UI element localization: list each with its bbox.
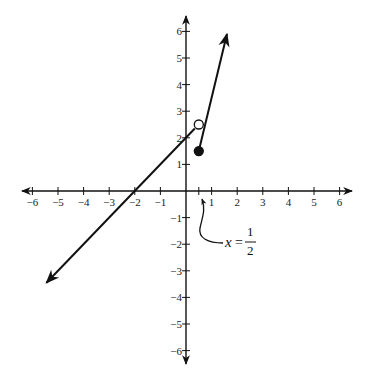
y-tick-label: −5 [170,318,182,330]
y-tick-label: −1 [170,212,182,224]
annotation-equals: = [235,235,243,250]
annotation-variable: x [224,234,232,250]
y-tick-label: 1 [177,158,183,170]
y-tick-label: 4 [177,79,183,91]
y-tick-label: 6 [177,25,183,37]
line-right-piece [199,34,227,151]
piecewise-graph: −6−5−4−3−2−1123456 −6−5−4−3−2−1123456 x … [0,0,371,377]
x-tick-label: −6 [27,196,39,208]
y-tick-label: −3 [170,265,182,277]
x-tick-label: 6 [337,196,343,208]
x-tick-label: 5 [311,196,317,208]
annotation-denominator: 2 [247,243,254,258]
x-tick-label: 3 [260,196,266,208]
y-tick-label: −6 [170,345,182,357]
x-axis-ticks: −6−5−4−3−2−1123456 [27,187,343,208]
y-tick-label: −4 [170,291,182,303]
x-tick-label: 4 [286,196,292,208]
x-tick-label: −5 [52,196,64,208]
closed-circle-point [194,147,203,156]
series-lines [46,34,226,283]
y-tick-label: −2 [170,238,182,250]
x-tick-label: −3 [103,196,115,208]
x-tick-label: 2 [234,196,240,208]
annotation-numerator: 1 [247,224,254,239]
x-tick-label: −2 [129,196,141,208]
y-tick-label: 3 [177,105,183,117]
x-tick-label: −4 [78,196,90,208]
x-tick-label: −1 [155,196,167,208]
x-tick-label: 1 [209,196,215,208]
y-tick-label: 5 [177,52,183,64]
line-left-piece [46,129,194,283]
open-circle-point [194,120,203,129]
